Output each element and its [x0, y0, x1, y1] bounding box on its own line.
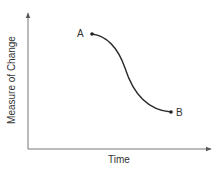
- change-curve: [92, 34, 171, 112]
- point-b-label: B: [176, 108, 183, 118]
- x-axis-label: Time: [0, 155, 216, 165]
- point-a-marker: [90, 32, 94, 36]
- chart-canvas: [0, 0, 216, 171]
- y-axis-label: Measure of Change: [7, 36, 17, 124]
- point-a-label: A: [77, 29, 84, 39]
- point-b-marker: [169, 110, 173, 114]
